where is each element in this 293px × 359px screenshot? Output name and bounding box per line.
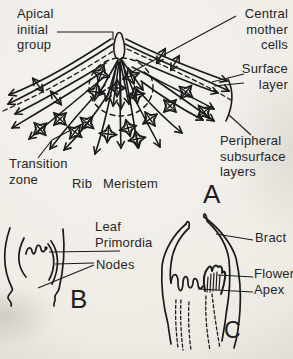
pointer-apical-initial-group <box>57 32 113 40</box>
surface-line-left-2 <box>8 44 113 104</box>
pointer-flower <box>218 275 253 277</box>
label-central-mother-cells: Central mother cells <box>245 6 288 53</box>
vascular-traces <box>176 294 220 350</box>
inner-left-curve <box>19 238 26 277</box>
label-apical-initial-group: Apical initial group <box>17 6 54 53</box>
panel-letter-b: B <box>70 286 87 312</box>
panel-letter-a: A <box>203 181 220 207</box>
apical-initial-group-shape <box>114 33 125 60</box>
meristem-figure: Apical initial group Central mother cell… <box>0 0 293 359</box>
pointer-nodes-1 <box>55 263 94 264</box>
inner-right-curve-1 <box>48 244 54 280</box>
outer-right-curve <box>54 229 64 306</box>
label-rib-meristem: Rib Meristem <box>72 176 158 192</box>
label-nodes: Nodes <box>96 257 135 273</box>
label-bract: Bract <box>255 230 286 246</box>
pointer-apex <box>198 289 253 292</box>
pointer-peripheral-layers <box>229 115 251 135</box>
label-transition-zone: Transition zone <box>9 156 68 187</box>
apex-dot <box>44 246 47 249</box>
right-fold-crease <box>226 79 232 121</box>
apex-surface-squiggle <box>171 275 203 291</box>
label-flower: Flower <box>254 266 293 282</box>
left-bract-tip <box>186 222 189 227</box>
outer-left-curve <box>5 228 13 306</box>
label-peripheral-subsurface-layers: Peripheral subsurface layers <box>220 133 286 180</box>
panel-c-pointer-lines <box>198 234 253 292</box>
panel-letter-c: C <box>224 317 241 343</box>
pointer-central-mother-cells <box>132 16 236 72</box>
pointer-leaf-primordia <box>49 251 120 252</box>
label-leaf-primordia: Leaf Primordia <box>95 219 152 250</box>
label-apex: Apex <box>254 282 284 298</box>
leaf-primordia-squiggle <box>26 245 46 254</box>
label-surface-layer: Surface layer <box>242 61 288 92</box>
